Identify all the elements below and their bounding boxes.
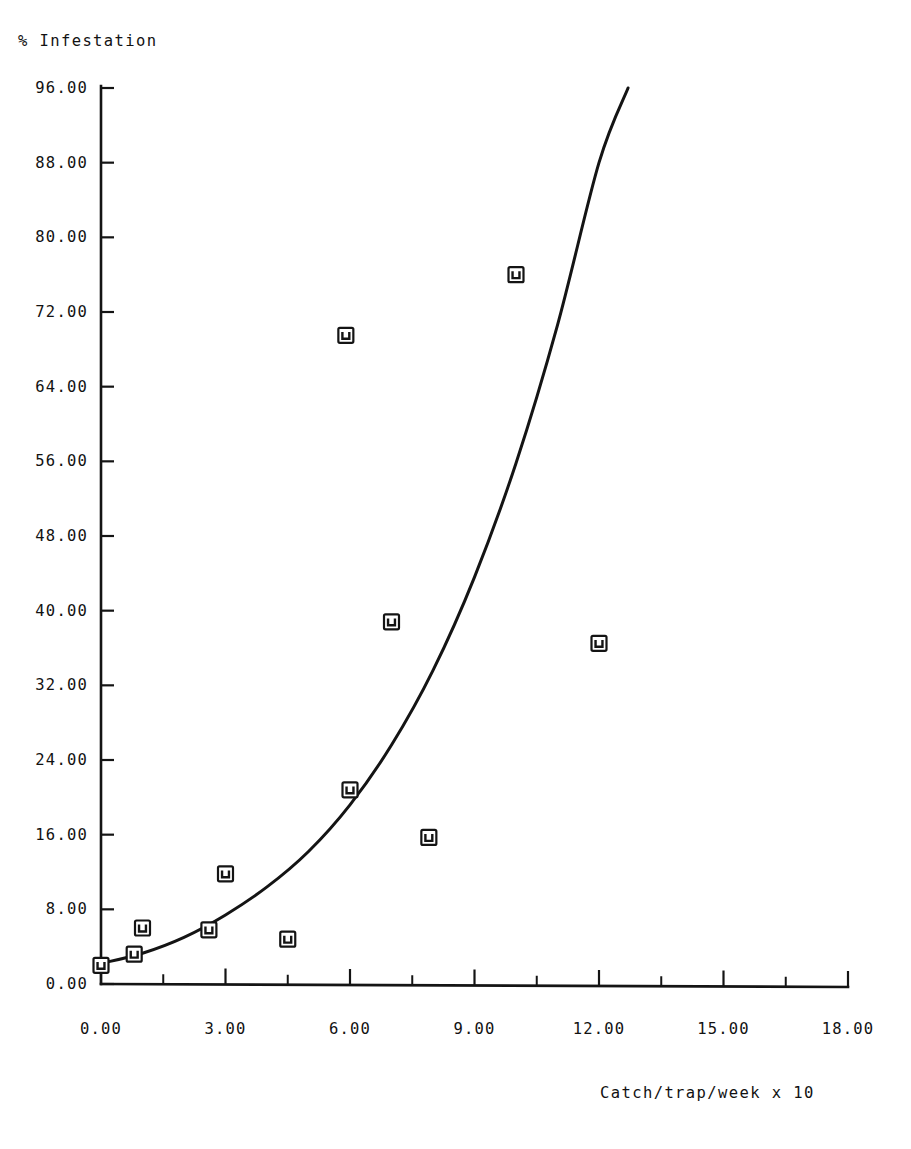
data-point-marker bbox=[201, 922, 216, 937]
tick-mark-group bbox=[101, 88, 848, 987]
marker-box bbox=[592, 636, 607, 651]
data-point-marker bbox=[343, 782, 358, 797]
data-point-marker bbox=[218, 866, 233, 881]
marker-box bbox=[127, 947, 142, 962]
marker-box bbox=[343, 782, 358, 797]
axis-group bbox=[101, 86, 848, 987]
marker-box bbox=[384, 614, 399, 629]
marker-box bbox=[421, 830, 436, 845]
fitted-curve-group bbox=[101, 88, 628, 963]
data-point-marker bbox=[280, 932, 295, 947]
marker-box bbox=[218, 866, 233, 881]
marker-box bbox=[201, 922, 216, 937]
data-point-marker bbox=[338, 328, 353, 343]
marker-box bbox=[94, 958, 109, 973]
data-point-marker bbox=[592, 636, 607, 651]
marker-box bbox=[135, 921, 150, 936]
data-point-marker bbox=[127, 947, 142, 962]
plot-area bbox=[0, 0, 911, 1149]
data-point-group bbox=[94, 267, 607, 973]
marker-box bbox=[338, 328, 353, 343]
data-point-marker bbox=[509, 267, 524, 282]
marker-box bbox=[280, 932, 295, 947]
chart-page: % Infestation Catch/trap/week x 10 96.00… bbox=[0, 0, 911, 1149]
data-point-marker bbox=[384, 614, 399, 629]
marker-box bbox=[509, 267, 524, 282]
fitted-curve bbox=[101, 88, 628, 963]
data-point-marker bbox=[421, 830, 436, 845]
data-point-marker bbox=[94, 958, 109, 973]
data-point-marker bbox=[135, 921, 150, 936]
